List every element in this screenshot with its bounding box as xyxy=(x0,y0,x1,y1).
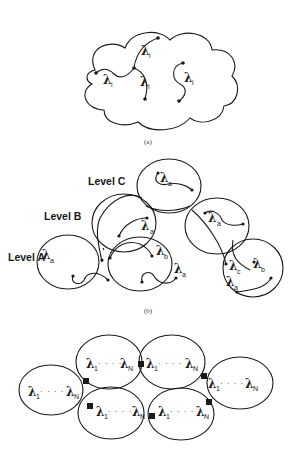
svg-text:i: i xyxy=(149,52,151,59)
diagram-canvas: λ i λ i λ i λ i (a) Level C Level B Leve… xyxy=(0,0,294,450)
svg-text:i: i xyxy=(111,81,113,88)
svg-text:a: a xyxy=(150,228,154,235)
svg-text:· · · ·: · · · · xyxy=(108,407,132,416)
svg-text:· · · ·: · · · · xyxy=(220,379,244,388)
path-curve xyxy=(142,273,176,283)
svg-text:N: N xyxy=(128,365,133,372)
svg-text:N: N xyxy=(140,413,145,420)
svg-text:λ: λ xyxy=(141,219,149,233)
svg-text:· · · ·: · · · · xyxy=(170,407,194,416)
junction-node xyxy=(201,373,207,379)
svg-text:N: N xyxy=(204,413,209,420)
svg-text:N: N xyxy=(193,365,198,372)
junction-node xyxy=(206,399,212,405)
svg-text:b: b xyxy=(261,266,265,273)
svg-text:· · · ·: · · · · xyxy=(158,359,182,368)
svg-text:· · · ·: · · · · xyxy=(40,387,64,396)
svg-text:a: a xyxy=(168,180,172,187)
caption-b: (b) xyxy=(144,307,153,315)
junction-node xyxy=(87,403,93,409)
cell-label: λ 1 · · · · λ N xyxy=(28,385,79,400)
junction-node xyxy=(83,378,89,384)
svg-text:λ: λ xyxy=(208,211,216,225)
panel-a: λ i λ i λ i λ i (a) xyxy=(85,32,238,146)
svg-text:a: a xyxy=(217,220,221,227)
cell-label: λ 1 · · · · λ N xyxy=(208,377,258,392)
cell-label: λ 1 · · · · λ N xyxy=(146,357,198,372)
svg-text:b: b xyxy=(164,253,168,260)
junction-node xyxy=(138,361,144,367)
level-a-region-1 xyxy=(37,235,99,289)
cell-label: λ 1 · · · · λ N xyxy=(96,405,145,420)
level-b-label: Level B xyxy=(44,210,82,222)
level-a-label: Level A xyxy=(8,251,45,263)
svg-text:a: a xyxy=(182,271,186,278)
path-curve xyxy=(96,68,134,77)
path-curve xyxy=(72,273,108,283)
svg-text:i: i xyxy=(148,83,150,90)
cell-label: λ 1 · · · · λ N xyxy=(158,405,209,420)
path-curve xyxy=(237,278,271,292)
svg-text:N: N xyxy=(74,393,79,400)
svg-text:a: a xyxy=(50,257,54,264)
caption-a: (a) xyxy=(144,138,152,146)
svg-text:c: c xyxy=(237,268,241,275)
level-c-label: Level C xyxy=(88,175,126,187)
svg-text:N: N xyxy=(253,385,258,392)
svg-text:· · · ·: · · · · xyxy=(98,359,122,368)
svg-text:a: a xyxy=(234,284,238,291)
panel-c: λ 1 · · · · λ N λ 1 · · · · λ N λ 1 · · … xyxy=(19,335,273,440)
panel-b: Level C Level B Level A λ a λ a λ a xyxy=(8,159,283,315)
cell-label: λ 1 · · · · λ N xyxy=(86,357,133,372)
svg-text:i: i xyxy=(192,79,194,86)
junction-node xyxy=(149,413,155,419)
